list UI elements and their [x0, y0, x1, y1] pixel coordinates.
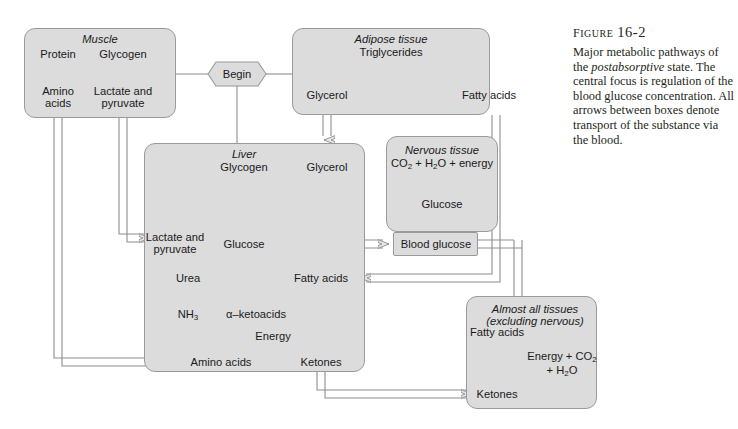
all-tissues-energy-line1: Energy + CO2 — [527, 350, 596, 364]
nervous-plus-h: + H — [412, 157, 433, 169]
muscle-amino-line1: Amino — [42, 85, 74, 97]
figure-caption: Figure 16-2 Major metabolic pathways of … — [573, 22, 735, 147]
adipose-fatty-acids: Fatty acids — [462, 89, 516, 101]
caption-line-7: transport of the substance — [573, 118, 700, 132]
caption-emphasis-postabsorptive: postabsorptive — [591, 60, 664, 74]
liver-nh3: NH3 — [178, 308, 199, 322]
liver-glucose: Glucose — [223, 238, 264, 250]
muscle-protein: Protein — [40, 48, 75, 60]
tissues-o-text: O — [569, 364, 578, 376]
nervous-h2o-subscript: 2 — [433, 162, 437, 171]
liver-energy: Energy — [255, 330, 290, 342]
wire-adipose-glycerol-to-liver — [323, 115, 331, 140]
liver-nh3-subscript: 3 — [194, 313, 198, 322]
caption-line-2-post: state. — [664, 60, 693, 74]
liver-lactate-line1: Lactate and — [146, 231, 204, 243]
tissues-energy-co2-subscript: 2 — [592, 355, 596, 364]
tissues-plus-h: + H — [547, 364, 565, 376]
caption-line-5: glucose concentration. All — [604, 89, 734, 103]
blood-glucose-label: Blood glucose — [401, 238, 471, 250]
nervous-co2-subscript: 2 — [408, 162, 412, 171]
tissues-h2o-subscript: 2 — [564, 369, 568, 378]
muscle-glycogen: Glycogen — [99, 48, 146, 60]
nervous-o-energy: O + energy — [437, 157, 493, 169]
nervous-glucose: Glucose — [421, 198, 462, 210]
figure-diagram: Muscle Protein Glycogen Amino acids Lact… — [0, 0, 738, 429]
all-tissues-energy-line2: + H2O — [547, 364, 578, 378]
liver-ketones: Ketones — [300, 356, 341, 368]
adipose-glycerol: Glycerol — [306, 89, 347, 101]
caption-line-1: Major metabolic pathways — [573, 45, 705, 59]
liver-nh3-text: NH — [178, 308, 194, 320]
all-tissues-ketones: Ketones — [476, 388, 517, 400]
wire-liver-ketones-to-alltissues — [317, 372, 472, 398]
liver-urea: Urea — [176, 272, 200, 284]
liver-glycogen: Glycogen — [220, 161, 267, 173]
muscle-amino-line2: acids — [45, 97, 71, 109]
muscle-title: Muscle — [82, 33, 117, 45]
nervous-co2-text: CO — [391, 157, 408, 169]
liver-lactate-line2: pyruvate — [154, 243, 197, 255]
adipose-triglycerides: Triglycerides — [360, 46, 423, 58]
liver-alpha-ketoacids: α–ketoacids — [226, 308, 286, 320]
liver-title: Liver — [232, 148, 256, 160]
figure-number: Figure 16-2 — [573, 22, 735, 42]
liver-fatty-acids: Fatty acids — [294, 272, 348, 284]
begin-label[interactable]: Begin — [223, 68, 252, 80]
tissues-energy-text: Energy + CO — [527, 350, 592, 362]
muscle-lactate-line1: Lactate and — [94, 85, 152, 97]
caption-line-6: arrows between boxes denote — [573, 103, 719, 117]
muscle-lactate-line2: pyruvate — [102, 97, 145, 109]
nervous-title: Nervous tissue — [405, 144, 479, 156]
adipose-title: Adipose tissue — [355, 33, 428, 45]
nervous-products: CO2 + H2O + energy — [391, 157, 493, 171]
all-tissues-title-line1: Almost all tissues — [492, 303, 578, 315]
figure-caption-body: Major metabolic pathways of the postabso… — [573, 45, 735, 147]
all-tissues-fatty-acids: Fatty acids — [470, 326, 524, 338]
liver-glycerol: Glycerol — [306, 161, 347, 173]
liver-amino-acids: Amino acids — [191, 356, 252, 368]
